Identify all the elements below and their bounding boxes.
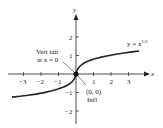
- vert-tan-pointer: [63, 62, 74, 72]
- curve-label: y = x1/5: [127, 39, 148, 48]
- vert-tan-label-line1: Vert tan: [36, 48, 58, 56]
- x-tick-label: 3: [127, 78, 131, 86]
- x-tick-label: −1: [54, 78, 62, 86]
- y-tick-label: −1: [65, 89, 73, 97]
- curve-label-exponent: 1/5: [141, 39, 148, 44]
- x-tick-label: −3: [19, 78, 27, 86]
- y-tick-label: −2: [65, 108, 73, 116]
- chart-canvas: −3 −2 −1 1 2 3 2 1 −1 −2 x y Vert tan at…: [0, 0, 163, 128]
- x-axis-arrow-icon: [144, 72, 150, 77]
- infl-pointer: [78, 76, 86, 85]
- x-tick-label: 1: [92, 78, 96, 86]
- y-axis-arrow-icon: [74, 14, 79, 20]
- point-label: (0, 0): [86, 88, 102, 96]
- y-tick-label: 2: [69, 34, 73, 42]
- y-tick-label: 1: [69, 52, 73, 60]
- infl-label: Infl: [87, 96, 97, 104]
- inflection-point-marker: [73, 71, 78, 76]
- x-tick-label: 2: [110, 78, 114, 86]
- x-tick-label: −2: [37, 78, 45, 86]
- vert-tan-label-line2: at x = 0: [37, 56, 59, 64]
- x-axis-label: x: [150, 70, 155, 78]
- curve-label-base: y = x: [127, 40, 142, 48]
- y-axis-label: y: [72, 6, 77, 14]
